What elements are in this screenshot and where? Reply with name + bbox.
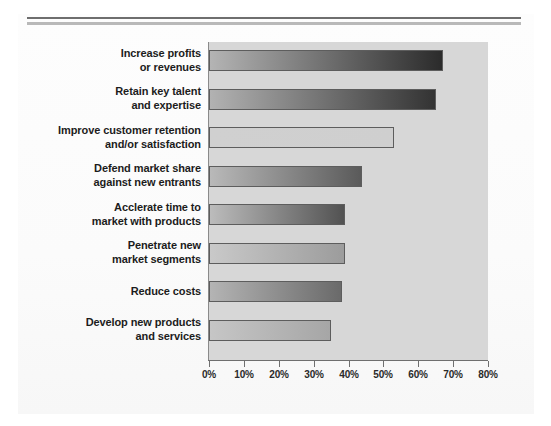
category-label: Defend market shareagainst new entrants [1,161,201,189]
x-axis-tick [488,361,489,367]
category-label-line: and services [1,329,201,343]
category-label-line: Retain key talent [1,84,201,98]
bar[interactable] [209,166,362,187]
bar[interactable] [209,281,342,302]
bar[interactable] [209,204,345,225]
x-axis-tick [279,361,280,367]
x-axis-tick [349,361,350,367]
bar[interactable] [209,50,443,71]
category-label-line: Develop new products [1,315,201,329]
x-axis-tick [314,361,315,367]
x-axis-tick [383,361,384,367]
category-label: Acclerate time tomarket with products [1,200,201,228]
category-label: Improve customer retentionand/or satisfa… [1,123,201,151]
category-label: Penetrate newmarket segments [1,238,201,266]
x-axis-tick-label: 20% [259,369,299,380]
category-label-line: Increase profits [1,46,201,60]
category-label: Develop new productsand services [1,315,201,343]
x-axis-tick-label: 30% [294,369,334,380]
category-label: Retain key talentand expertise [1,84,201,112]
category-label-line: Improve customer retention [1,123,201,137]
x-axis-tick [418,361,419,367]
category-label: Reduce costs [1,284,201,298]
category-label: Increase profitsor revenues [1,46,201,74]
x-axis-tick-label: 80% [468,369,508,380]
bar[interactable] [209,127,394,148]
x-axis-tick-label: 60% [398,369,438,380]
bar[interactable] [209,89,436,110]
category-label-line: and/or satisfaction [1,137,201,151]
category-label-line: Acclerate time to [1,200,201,214]
page-canvas: 0%10%20%30%40%50%60%70%80% Increase prof… [0,0,551,426]
category-label-line: or revenues [1,60,201,74]
x-axis-tick-label: 70% [433,369,473,380]
x-axis-tick-label: 0% [189,369,229,380]
category-label-line: Reduce costs [1,284,201,298]
x-axis-tick-label: 10% [224,369,264,380]
category-label-line: market with products [1,214,201,228]
category-label-line: market segments [1,252,201,266]
x-axis-line [208,360,488,361]
category-label-line: Defend market share [1,161,201,175]
x-axis-tick [244,361,245,367]
category-label-line: against new entrants [1,175,201,189]
x-axis-tick [209,361,210,367]
category-label-line: and expertise [1,98,201,112]
x-axis-tick [453,361,454,367]
x-axis-tick-label: 50% [363,369,403,380]
bar[interactable] [209,243,345,264]
category-label-line: Penetrate new [1,238,201,252]
bar[interactable] [209,320,331,341]
horizontal-bar-chart: 0%10%20%30%40%50%60%70%80% Increase prof… [0,0,551,426]
